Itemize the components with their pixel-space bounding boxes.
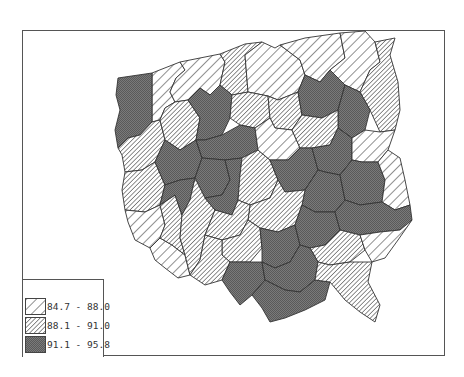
legend-label: 91.1 - 95.8 (47, 339, 110, 350)
legend: 84.7 - 88.0 88.1 - 91.0 91.1 - 95.8 (22, 279, 104, 357)
region-high-e-8 (340, 160, 385, 205)
high-hatch-swatch-icon (25, 336, 46, 353)
mid-hatch-swatch-icon (25, 317, 46, 334)
legend-label: 88.1 - 91.0 (47, 320, 110, 331)
legend-label: 84.7 - 88.0 (47, 301, 110, 312)
low-hatch-swatch-icon (25, 298, 46, 315)
legend-item-mid: 88.1 - 91.0 (25, 317, 110, 334)
legend-item-low: 84.7 - 88.0 (25, 298, 110, 315)
legend-item-high: 91.1 - 95.8 (25, 336, 110, 353)
